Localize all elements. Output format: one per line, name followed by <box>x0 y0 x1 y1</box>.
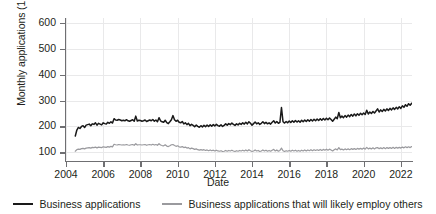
y-tick-mark <box>60 75 65 76</box>
chart-figure: Monthly applications (1,000s) 1002003004… <box>0 0 436 214</box>
y-tick-label: 300 <box>0 94 56 106</box>
series-line <box>75 35 412 136</box>
chart-legend: Business applicationsBusiness applicatio… <box>0 196 436 212</box>
x-tick-mark <box>178 162 179 167</box>
y-tick-mark <box>60 23 65 24</box>
x-tick-mark <box>326 162 327 167</box>
y-tick-label: 500 <box>0 42 56 54</box>
x-tick-mark <box>252 162 253 167</box>
x-tick-mark <box>289 162 290 167</box>
x-tick-mark <box>215 162 216 167</box>
legend-item[interactable]: Business applications <box>13 198 140 210</box>
legend-swatch-icon <box>162 203 182 205</box>
y-tick-mark <box>60 49 65 50</box>
x-tick-mark <box>401 162 402 167</box>
y-tick-label: 400 <box>0 68 56 80</box>
x-tick-mark <box>140 162 141 167</box>
y-tick-mark <box>60 152 65 153</box>
y-tick-label: 600 <box>0 16 56 28</box>
x-tick-mark <box>66 162 67 167</box>
y-tick-label: 100 <box>0 145 56 157</box>
y-tick-mark <box>60 126 65 127</box>
y-tick-mark <box>60 101 65 102</box>
legend-item[interactable]: Business applications that will likely e… <box>162 198 422 210</box>
legend-swatch-icon <box>13 203 33 205</box>
legend-label: Business applications that will likely e… <box>188 198 422 210</box>
x-tick-mark <box>364 162 365 167</box>
y-tick-label: 200 <box>0 119 56 131</box>
series-line <box>75 133 412 157</box>
legend-label: Business applications <box>39 198 140 210</box>
x-axis-title: Date <box>0 176 436 188</box>
series-lines <box>66 18 412 160</box>
x-axis-spine <box>65 161 413 162</box>
x-tick-mark <box>103 162 104 167</box>
